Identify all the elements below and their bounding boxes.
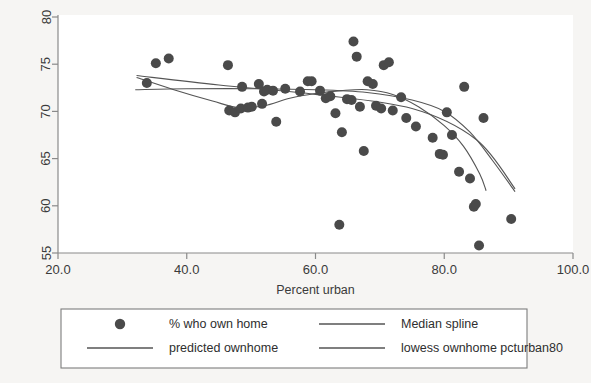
x-tick-label: 20.0 [45,262,70,277]
data-point [479,113,489,123]
data-point [471,199,481,209]
data-point [438,150,448,160]
plot-area [58,15,573,253]
legend-label: lowess ownhome pcturban80 [401,341,563,355]
legend-label: predicted ownhome [169,341,278,355]
legend-marker-icon [115,319,125,329]
data-point [142,78,152,88]
data-point [396,92,406,102]
y-tick-label: 55 [39,246,54,260]
y-tick-label: 75 [39,57,54,71]
data-point [223,60,233,70]
data-point [247,102,257,112]
figure-container: 55606570758020.040.060.080.0100.0Percent… [0,0,591,383]
data-point [454,167,464,177]
data-point [257,99,267,109]
data-point [355,102,365,112]
x-tick-label: 100.0 [557,262,590,277]
data-point [325,91,335,101]
data-point [352,52,362,62]
legend-label: Median spline [401,317,478,331]
y-tick-label: 80 [39,10,54,24]
data-point [347,95,357,105]
data-point [337,127,347,137]
data-point [280,84,290,94]
scatter-chart: 55606570758020.040.060.080.0100.0Percent… [0,0,591,383]
data-point [271,117,281,127]
data-point [368,79,378,89]
data-point [447,130,457,140]
data-point [295,87,305,97]
y-tick-label: 70 [39,104,54,118]
legend-label: % who own home [169,317,268,331]
data-point [506,214,516,224]
x-tick-label: 60.0 [303,262,328,277]
x-axis-label: Percent urban [276,283,355,297]
data-point [474,240,484,250]
data-point [411,122,421,132]
data-point [268,86,278,96]
data-point [151,58,161,68]
data-point [465,173,475,183]
data-point [459,82,469,92]
y-tick-label: 65 [39,151,54,165]
data-point [348,37,358,47]
data-point [237,82,247,92]
data-point [428,133,438,143]
data-point [330,108,340,118]
data-point [401,113,411,123]
data-point [359,146,369,156]
data-point [334,220,344,230]
data-point [384,57,394,67]
data-point [307,76,317,86]
data-point [388,105,398,115]
x-tick-label: 40.0 [174,262,199,277]
data-point [442,107,452,117]
x-tick-label: 80.0 [432,262,457,277]
data-point [376,104,386,114]
data-point [164,54,174,64]
y-tick-label: 60 [39,199,54,213]
